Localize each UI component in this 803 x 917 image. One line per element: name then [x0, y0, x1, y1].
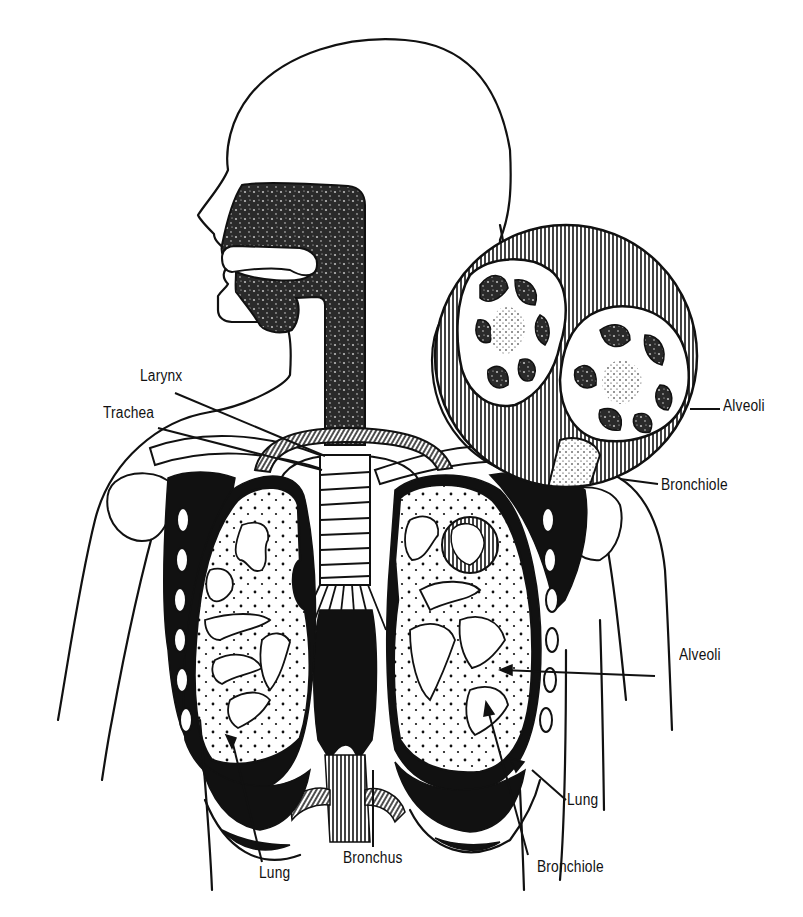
- respiratory-diagram: Larynx Trachea Alveoli Bronchiole Alveol…: [0, 0, 803, 917]
- mediastinum: [314, 610, 377, 760]
- label-bronchiole-inset: Bronchiole: [661, 477, 728, 493]
- leader-lung-right: [532, 770, 566, 800]
- left-humerus: [107, 473, 173, 541]
- spine: [325, 755, 370, 842]
- respiratory-illustration: [0, 0, 803, 917]
- label-trachea: Trachea: [103, 405, 154, 421]
- neck-front: [210, 322, 291, 412]
- nasal-oral-cavity: [222, 183, 365, 445]
- label-lung-left: Lung: [259, 865, 290, 881]
- label-alveoli-inset: Alveoli: [723, 398, 765, 414]
- label-lung-right: Lung: [567, 792, 598, 808]
- palate: [222, 246, 317, 275]
- torso-line-right-2: [600, 620, 604, 810]
- label-bronchus: Bronchus: [343, 850, 403, 866]
- torso-side-right: [560, 650, 566, 880]
- label-larynx: Larynx: [140, 368, 182, 384]
- label-alveoli-lung: Alveoli: [679, 647, 721, 663]
- label-bronchiole-lung: Bronchiole: [537, 859, 604, 875]
- lower-ribs-right: [365, 789, 405, 822]
